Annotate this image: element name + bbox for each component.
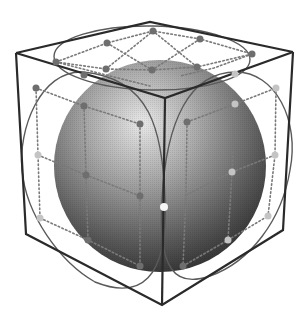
point-right-upper-inner: [184, 119, 191, 126]
point-front-edge-tangent: [160, 203, 168, 211]
point-left-upper-inner: [137, 121, 144, 128]
point-top-front-right: [232, 71, 239, 78]
point-right-lower-outer: [265, 213, 272, 220]
point-right-upper-outer: [273, 85, 280, 92]
point-right-lower-inner: [180, 263, 187, 270]
point-top-left-back: [104, 40, 111, 47]
point-top-center-left: [103, 66, 110, 73]
point-left-lower-outer: [37, 215, 44, 222]
point-left-upper-outer: [33, 85, 40, 92]
point-top-center: [149, 67, 156, 74]
point-top-left: [53, 59, 60, 66]
point-right-upper-mid: [232, 101, 239, 108]
point-left-mid-inner: [137, 193, 144, 200]
point-top-right: [249, 51, 256, 58]
point-top-back: [150, 28, 157, 35]
point-top-right-back: [197, 36, 204, 43]
point-top-center-right: [194, 64, 201, 71]
point-top-front-left: [81, 72, 88, 79]
point-right-mid-outer: [272, 152, 279, 159]
point-right-center: [229, 169, 236, 176]
point-left-mid-outer: [35, 152, 42, 159]
point-left-upper-mid: [81, 103, 88, 110]
cube-sphere-figure: [0, 0, 308, 318]
point-right-lower-mid: [225, 237, 232, 244]
point-left-center: [83, 172, 90, 179]
diagram-canvas: Sphere inscribed in a cube with tangent …: [0, 0, 308, 318]
point-left-lower-mid: [85, 237, 92, 244]
point-left-lower-inner: [137, 263, 144, 270]
